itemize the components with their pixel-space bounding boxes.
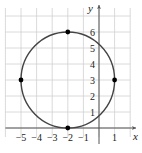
tick-labels: −5−4−3−2−11123456 [16,27,117,144]
data-point [65,30,70,35]
data-point [112,78,117,83]
x-tick-label: −4 [31,132,42,143]
axes [5,5,136,144]
y-tick-label: 5 [90,43,95,54]
grid-lines [5,8,130,137]
y-tick-label: 3 [90,75,95,86]
y-tick-label: 2 [90,91,95,102]
data-point [65,126,70,131]
y-tick-label: 4 [90,59,95,70]
y-tick-label: 6 [90,27,95,38]
y-axis-label: y [87,2,93,14]
x-axis-label: x [132,130,138,142]
x-tick-label: −1 [78,132,89,143]
x-tick-label: −2 [62,132,73,143]
y-tick-label: 1 [90,107,95,118]
x-tick-label: −3 [47,132,58,143]
circle-graph: −5−4−3−2−11123456 x y [0,0,142,153]
x-tick-label: −5 [16,132,27,143]
data-point [19,78,24,83]
x-tick-label: 1 [112,132,117,143]
